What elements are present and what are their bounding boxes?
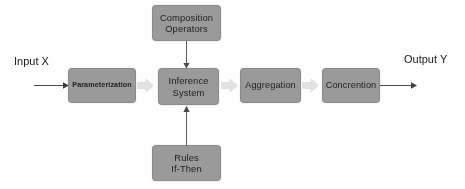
node-composition-operators-label: Composition Operators <box>160 12 213 34</box>
node-aggregation[interactable]: Aggregation <box>240 68 301 103</box>
node-inference-system-label: Inference System <box>169 75 209 97</box>
output-arrow-icon <box>380 81 418 90</box>
node-composition-operators[interactable]: Composition Operators <box>152 5 221 41</box>
block-arrow-right-icon <box>137 78 154 93</box>
node-rules-if-then[interactable]: Rules If-Then <box>152 145 221 181</box>
rules-to-inference-arrow-icon <box>182 105 191 146</box>
node-parameterization-label: Parameterization <box>72 81 132 89</box>
node-concretion-label: Concrention <box>326 80 377 91</box>
node-aggregation-label: Aggregation <box>245 80 296 91</box>
node-concretion[interactable]: Concrention <box>322 68 380 103</box>
node-inference-system[interactable]: Inference System <box>158 68 219 105</box>
input-label: Input X <box>14 55 49 67</box>
output-label: Output Y <box>404 53 447 65</box>
composition-to-inference-arrow-icon <box>182 41 191 69</box>
node-parameterization[interactable]: Parameterization <box>68 68 136 103</box>
diagram-canvas: Input X Output Y Parameterization Infere… <box>0 0 465 189</box>
node-rules-if-then-label: Rules If-Then <box>171 152 201 174</box>
block-arrow-right-icon <box>221 78 238 93</box>
input-arrow-icon <box>34 81 70 90</box>
block-arrow-right-icon <box>302 78 319 93</box>
